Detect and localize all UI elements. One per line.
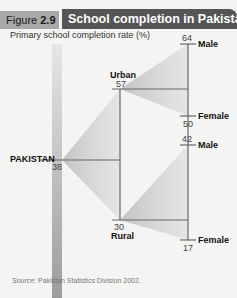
source-note: Source: Pakistan Statistics Division 200… <box>12 277 141 284</box>
rural-female-label: Female <box>198 235 229 245</box>
rural-female-value: 17 <box>183 243 193 253</box>
urban-value: 57 <box>116 79 126 89</box>
urban-female-label: Female <box>198 111 229 121</box>
pakistan-value: 38 <box>52 162 62 172</box>
rural-male-label: Male <box>198 140 218 150</box>
source-text: Pakistan Statistics Division 2002. <box>38 277 141 284</box>
urban-male-label: Male <box>198 39 218 49</box>
urban-male-value: 64 <box>182 33 192 43</box>
urban-female-value: 50 <box>183 119 193 129</box>
pakistan-label: PAKISTAN <box>10 154 55 164</box>
wedge-rural-split <box>120 145 188 240</box>
wedge-urban-split <box>120 44 188 116</box>
rural-male-value: 42 <box>182 134 192 144</box>
rural-label: Rural <box>111 231 134 241</box>
wedge-pakistan-split <box>62 89 120 220</box>
source-prefix: Source: <box>12 277 36 284</box>
